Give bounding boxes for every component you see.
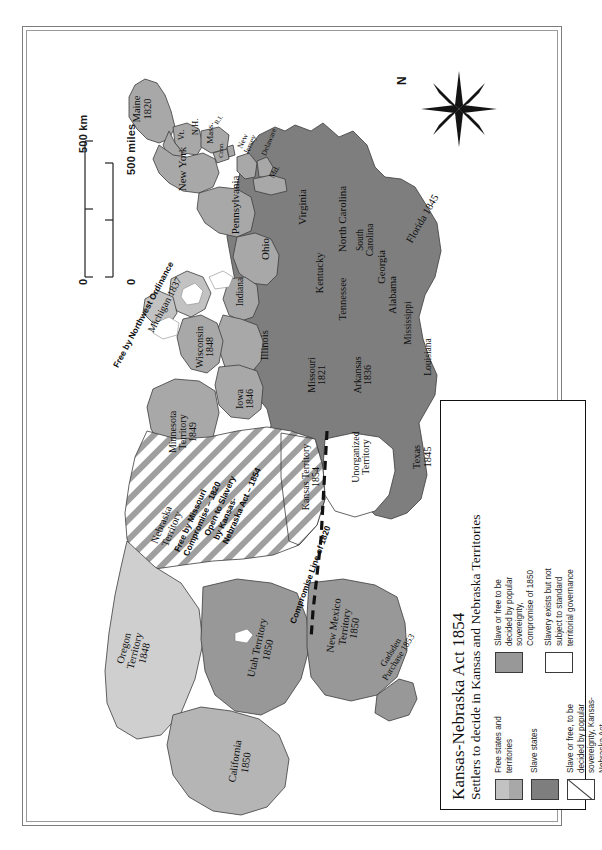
legend-column-right: Slave or free to be decided by popular s… bbox=[494, 560, 602, 673]
legend-entry-popular-sovereignty: Slave or free, to be decided by popular … bbox=[566, 687, 602, 800]
popular-sovereignty-swatch bbox=[567, 779, 595, 800]
compromise-1850-swatch bbox=[495, 652, 523, 673]
legend-subtitle: Settlers to decide in Kansas and Nebrask… bbox=[469, 411, 484, 800]
legend-label-compromise-1850: Slave or free to be decided by popular s… bbox=[494, 560, 537, 646]
scale-label-miles: 500 miles bbox=[125, 124, 137, 175]
map-legend: Kansas-Nebraska Act 1854 Settlers to dec… bbox=[440, 400, 586, 810]
slave-states-swatch bbox=[531, 779, 559, 800]
legend-entries: Free states and territories Slave states… bbox=[494, 411, 602, 800]
free-states-swatch bbox=[495, 779, 523, 800]
legend-rotated-content: Kansas-Nebraska Act 1854 Settlers to dec… bbox=[441, 401, 587, 811]
legend-entry-compromise-1850: Slave or free to be decided by popular s… bbox=[494, 560, 537, 673]
legend-title: Kansas-Nebraska Act 1854 bbox=[450, 411, 468, 800]
unorganized-swatch bbox=[545, 652, 573, 673]
compass-north-label: N bbox=[395, 76, 409, 85]
scale-bar-km bbox=[85, 141, 93, 277]
western-territories-region bbox=[105, 541, 417, 815]
legend-label-slave-states: Slave states bbox=[530, 728, 541, 773]
compass-rose bbox=[419, 69, 499, 149]
legend-entry-unorganized: Slavery exists but not subject to standa… bbox=[544, 560, 576, 673]
legend-label-unorganized: Slavery exists but not subject to standa… bbox=[544, 560, 576, 646]
compass-star-icon bbox=[421, 71, 497, 147]
legend-entry-free-states: Free states and territories bbox=[494, 687, 523, 800]
legend-label-free-states: Free states and territories bbox=[494, 687, 516, 773]
legend-label-popular-sovereignty: Slave or free, to be decided by popular … bbox=[566, 687, 602, 773]
legend-column-left: Free states and territories Slave states… bbox=[494, 687, 602, 800]
scale-zero-miles: 0 bbox=[125, 279, 137, 285]
scale-label-km: 500 km bbox=[77, 114, 89, 153]
map-page: .o { stroke:#3c3c3c; stroke-width:.8; } … bbox=[0, 0, 602, 850]
scale-zero-km: 0 bbox=[77, 279, 89, 285]
scale-bar-miles bbox=[105, 163, 113, 277]
scale-bar-group: 500 km 500 miles 0 0 bbox=[47, 127, 157, 327]
legend-entry-slave-states: Slave states bbox=[530, 687, 559, 800]
